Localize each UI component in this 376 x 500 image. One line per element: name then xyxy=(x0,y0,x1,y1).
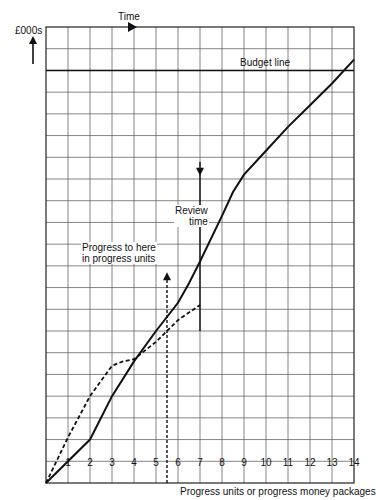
progress-label: Progress to here in progress units xyxy=(81,242,157,264)
progress-arrow-icon xyxy=(163,272,171,280)
time-arrow-icon xyxy=(128,22,137,32)
progress-label-line1: Progress to here xyxy=(82,242,156,253)
x-tick-label: 4 xyxy=(124,457,144,468)
x-tick-label: 14 xyxy=(344,457,364,468)
review-label-line1: Review xyxy=(175,205,208,216)
review-arrow-icon xyxy=(196,168,204,176)
x-tick-label: 11 xyxy=(278,457,298,468)
y-axis-arrow-icon xyxy=(29,36,37,44)
time-axis-label: Time xyxy=(118,11,140,22)
x-axis-label: Progress units or progress money package… xyxy=(180,486,376,497)
x-tick-label: 9 xyxy=(234,457,254,468)
x-tick-label: 12 xyxy=(300,457,320,468)
x-tick-label: 1 xyxy=(58,457,78,468)
progress-label-line2: in progress units xyxy=(82,253,156,264)
review-time-label: Review time xyxy=(174,205,209,227)
budget-line-label: Budget line xyxy=(240,57,290,68)
x-tick-label: 6 xyxy=(168,457,188,468)
review-label-line2: time xyxy=(175,216,208,227)
x-tick-label: 8 xyxy=(212,457,232,468)
x-tick-label: 10 xyxy=(256,457,276,468)
x-tick-label: 3 xyxy=(102,457,122,468)
x-tick-label: 5 xyxy=(146,457,166,468)
x-tick-label: 7 xyxy=(190,457,210,468)
x-tick-label: 13 xyxy=(322,457,342,468)
x-tick-label: 2 xyxy=(80,457,100,468)
y-axis-label: £000s xyxy=(15,25,42,36)
